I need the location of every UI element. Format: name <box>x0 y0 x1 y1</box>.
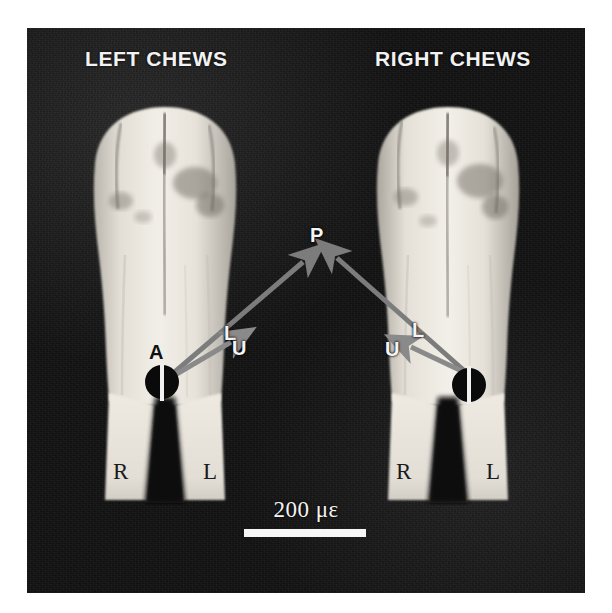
root-label-right-panel-right: R <box>396 459 411 485</box>
strain-gauge-rosette-left <box>145 365 179 399</box>
panel-heading-right-chews: RIGHT CHEWS <box>375 47 531 71</box>
vector-label-u-left: U <box>232 337 246 360</box>
scale-bar-group: 200 με <box>244 497 368 537</box>
strain-vector-figure: LEFT CHEWS RIGHT CHEWS <box>0 0 612 613</box>
tooth-specimen-right <box>368 105 528 505</box>
tooth-specimen-left <box>85 105 245 505</box>
panel-heading-left-chews: LEFT CHEWS <box>85 47 228 71</box>
scale-bar-label: 200 με <box>244 497 368 523</box>
scale-bar-rule <box>244 529 366 537</box>
vector-label-u-right: U <box>385 338 399 361</box>
vector-label-posterior: P <box>310 224 323 247</box>
root-label-left-panel-right: R <box>113 459 128 485</box>
vector-label-lateral-right: L <box>412 319 424 342</box>
strain-gauge-rosette-right <box>452 368 486 402</box>
root-label-left-panel-left: L <box>203 459 217 485</box>
vector-label-anterior-left: A <box>149 341 163 364</box>
root-label-right-panel-left: L <box>486 459 500 485</box>
